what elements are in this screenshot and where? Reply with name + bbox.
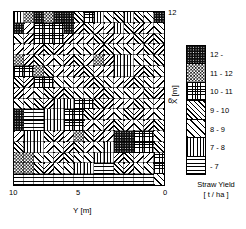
heatmap-cell xyxy=(94,163,104,174)
x-axis-tick-0: 0 xyxy=(163,189,167,197)
heatmap-cell xyxy=(124,12,134,23)
heatmap-cell xyxy=(114,174,124,185)
heatmap-cell xyxy=(124,142,134,153)
heatmap-cell xyxy=(134,99,144,110)
heatmap-cell xyxy=(134,23,144,34)
heatmap-cell xyxy=(104,12,114,23)
heatmap-cell xyxy=(104,174,114,185)
heatmap-cell xyxy=(64,34,74,45)
heatmap-cell xyxy=(134,12,144,23)
legend-swatch xyxy=(187,157,205,174)
heatmap-cell xyxy=(144,142,154,153)
heatmap-cell xyxy=(104,131,114,142)
legend-label: 10 - 11 xyxy=(210,87,233,96)
heatmap-cell xyxy=(104,153,114,164)
heatmap-cell xyxy=(104,163,114,174)
heatmap-cell xyxy=(24,77,34,88)
heatmap-cell xyxy=(134,55,144,66)
heatmap-cell xyxy=(24,23,34,34)
heatmap-cell xyxy=(144,109,154,120)
heatmap-cell xyxy=(134,34,144,45)
heatmap-cell xyxy=(54,34,64,45)
heatmap-cell xyxy=(64,55,74,66)
y-axis-tick-12: 12 xyxy=(168,8,176,17)
legend-label: - 7 xyxy=(210,162,219,171)
heatmap-cell xyxy=(154,131,164,142)
heatmap-cell xyxy=(14,142,24,153)
heatmap-cell xyxy=(34,120,44,131)
heatmap-cell xyxy=(104,34,114,45)
heatmap-cell xyxy=(24,131,34,142)
heatmap-cell xyxy=(124,131,134,142)
heatmap-cell xyxy=(144,120,154,131)
heatmap-cell xyxy=(124,163,134,174)
heatmap-cell xyxy=(124,99,134,110)
heatmap-cell xyxy=(144,66,154,77)
heatmap-cell xyxy=(74,142,84,153)
x-axis-title: Y [m] xyxy=(73,206,92,215)
heatmap-cell xyxy=(44,77,54,88)
heatmap-cell xyxy=(64,153,74,164)
heatmap-cell xyxy=(44,109,54,120)
heatmap-cell xyxy=(64,109,74,120)
heatmap-cell xyxy=(14,88,24,99)
heatmap-cell xyxy=(74,12,84,23)
heatmap-cell xyxy=(154,163,164,174)
heatmap-cell xyxy=(74,109,84,120)
heatmap-cell xyxy=(104,44,114,55)
heatmap-cell xyxy=(114,12,124,23)
heatmap-grid xyxy=(14,12,164,185)
heatmap-cell xyxy=(74,66,84,77)
heatmap-cell xyxy=(94,99,104,110)
heatmap-cell xyxy=(154,142,164,153)
heatmap-cell xyxy=(104,55,114,66)
heatmap-cell xyxy=(44,120,54,131)
heatmap-cell xyxy=(54,174,64,185)
heatmap-cell xyxy=(24,34,34,45)
heatmap-cell xyxy=(74,153,84,164)
heatmap-cell xyxy=(94,55,104,66)
heatmap-cell xyxy=(134,153,144,164)
heatmap-cell xyxy=(14,163,24,174)
heatmap-cell xyxy=(94,44,104,55)
heatmap-cell xyxy=(94,109,104,120)
heatmap-cell xyxy=(124,153,134,164)
heatmap-cell xyxy=(34,109,44,120)
heatmap-cell xyxy=(74,120,84,131)
heatmap-cell xyxy=(74,131,84,142)
heatmap-cell xyxy=(124,120,134,131)
heatmap-cell xyxy=(124,34,134,45)
legend-caption-units: [ t / ha ] xyxy=(186,190,246,200)
heatmap-cell xyxy=(134,120,144,131)
heatmap-cell xyxy=(124,174,134,185)
heatmap-cell xyxy=(34,55,44,66)
heatmap-cell xyxy=(134,174,144,185)
heatmap-cell xyxy=(144,131,154,142)
heatmap-cell xyxy=(94,142,104,153)
heatmap-cell xyxy=(14,44,24,55)
heatmap-cell xyxy=(94,66,104,77)
heatmap-cell xyxy=(134,88,144,99)
heatmap-cell xyxy=(114,153,124,164)
heatmap-cell xyxy=(54,99,64,110)
heatmap-cell xyxy=(154,66,164,77)
heatmap-cell xyxy=(34,163,44,174)
heatmap-cell xyxy=(154,99,164,110)
heatmap-cell xyxy=(114,109,124,120)
heatmap-cell xyxy=(124,55,134,66)
heatmap-cell xyxy=(114,77,124,88)
heatmap-cell xyxy=(114,44,124,55)
heatmap-cell xyxy=(154,55,164,66)
heatmap-cell xyxy=(14,120,24,131)
heatmap-cell xyxy=(54,44,64,55)
heatmap-cell xyxy=(14,12,24,23)
heatmap-cell xyxy=(34,88,44,99)
heatmap-cell xyxy=(144,12,154,23)
heatmap-cell xyxy=(154,77,164,88)
heatmap-cell xyxy=(64,120,74,131)
heatmap-cell xyxy=(64,163,74,174)
heatmap-cell xyxy=(144,77,154,88)
heatmap-cell xyxy=(54,142,64,153)
legend-caption: Straw Yield [ t / ha ] xyxy=(186,180,246,200)
heatmap-cell xyxy=(24,120,34,131)
